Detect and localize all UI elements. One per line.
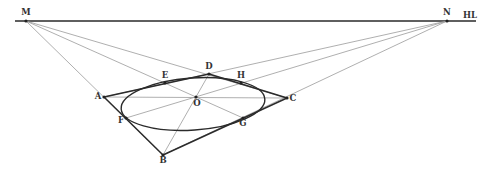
label-a: A <box>94 91 102 101</box>
label-c: C <box>290 93 297 103</box>
construction-line-nf <box>126 21 447 118</box>
edge-ad <box>104 74 209 97</box>
label-b: B <box>159 155 166 165</box>
point-c <box>285 96 288 99</box>
perspective-diagram: HL MNABCDEFGHO <box>0 0 492 177</box>
horizon-label: HL <box>463 10 477 20</box>
label-m: M <box>21 7 31 17</box>
edge-dc <box>209 74 287 98</box>
construction-line-db <box>163 74 209 155</box>
point-d <box>207 72 210 75</box>
square-edges <box>104 74 287 155</box>
point-h <box>239 81 242 84</box>
label-o: O <box>193 98 201 108</box>
point-m <box>24 19 27 22</box>
point-n <box>445 19 448 22</box>
point-a <box>102 95 105 98</box>
label-f: F <box>118 115 124 125</box>
label-n: N <box>443 7 451 17</box>
label-e: E <box>162 70 169 80</box>
label-d: D <box>205 61 213 71</box>
edge-ba <box>104 97 163 155</box>
label-g: G <box>239 118 246 128</box>
label-h: H <box>237 70 245 80</box>
edge-cb <box>163 98 287 155</box>
construction-lines <box>26 21 447 155</box>
point-f <box>124 116 127 119</box>
point-labels: MNABCDEFGHO <box>21 7 451 165</box>
point-e <box>163 81 166 84</box>
